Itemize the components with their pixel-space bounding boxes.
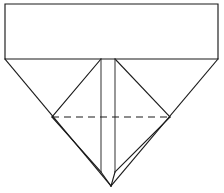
figure-canvas (0, 0, 224, 193)
top-rectangle-fill (5, 4, 218, 59)
origami-fold-diagram (0, 0, 224, 193)
